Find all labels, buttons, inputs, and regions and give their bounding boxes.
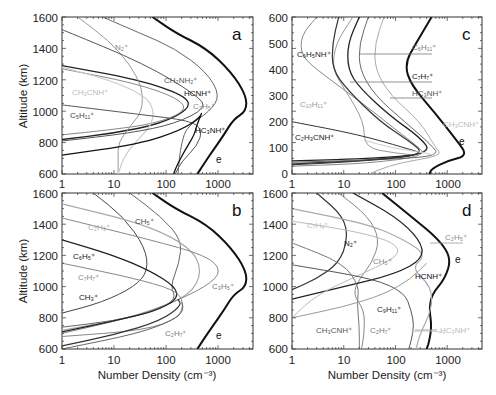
curve-ion-low <box>292 263 427 318</box>
panel-c: 600 500 400 300 200 100 0 1 10 100 1000 … <box>269 12 482 190</box>
ytick-d-800: 800 <box>269 312 288 324</box>
ytick-b-1200: 1200 <box>32 250 58 262</box>
panel-letter-c: c <box>462 25 471 44</box>
ytick-d-1600: 1600 <box>262 188 288 200</box>
ytick-c-500: 500 <box>269 38 288 50</box>
label-b-c6h5: C₆H₅⁺ <box>73 252 95 261</box>
label-d-ch5: CH₅⁺ <box>373 257 392 266</box>
label-c-c2h3cnh: C₂H₃CNH⁺ <box>295 133 334 142</box>
xtick-a-1000: 1000 <box>205 178 231 190</box>
panel-letter-d: d <box>462 201 471 220</box>
label-a-e: e <box>216 154 222 165</box>
xtick-c-1: 1 <box>289 178 295 190</box>
figure: 1600 1400 1200 1000 800 600 1 10 100 100… <box>0 0 496 395</box>
curve-n2- <box>292 193 346 290</box>
xtick-d-1000: 1000 <box>435 354 461 366</box>
xtick-c-1000: 1000 <box>435 178 461 190</box>
ytick-c-400: 400 <box>269 64 288 76</box>
label-d-ch3cnh: CH₃CNH⁺ <box>316 326 352 335</box>
ytick-b-1400: 1400 <box>32 219 58 231</box>
label-c-c7h7: C₇H₇⁺ <box>412 72 433 81</box>
label-d-c9h11: C₉H₁₁⁺ <box>377 305 401 314</box>
ytick-d-1000: 1000 <box>262 281 288 293</box>
label-d-c2h7: C₂H₇⁺ <box>370 326 391 335</box>
label-d-hcnh: HCNH⁺ <box>415 272 442 281</box>
xtick-d-10: 10 <box>338 354 351 366</box>
ytick-a-800: 800 <box>39 137 58 149</box>
xtick-c-100: 100 <box>386 178 405 190</box>
xtick-b-100: 100 <box>156 354 175 366</box>
ytick-a-1000: 1000 <box>32 106 58 118</box>
curve-ion-upper <box>62 30 203 141</box>
xtick-b-10: 10 <box>108 354 121 366</box>
label-c-c6h5nh: C₆H₅NH⁺ <box>297 50 331 59</box>
label-c-e: e <box>459 136 465 147</box>
panel-letter-b: b <box>232 201 241 220</box>
label-d-hc3nh: HC₃NH⁺ <box>440 326 470 335</box>
label-b-c2h3: C₂H₃⁺ <box>88 223 110 232</box>
xlabel-d: Number Density (cm⁻³) <box>328 369 447 381</box>
xlabel-b: Number Density (cm⁻³) <box>98 369 217 381</box>
label-a-c5h11: C₅H₁₁⁺ <box>70 111 94 120</box>
panel-a: 1600 1400 1200 1000 800 600 1 10 100 100… <box>17 12 253 190</box>
ytick-d-1200: 1200 <box>262 250 288 262</box>
xtick-a-10: 10 <box>108 178 121 190</box>
panel-b-curves <box>62 193 246 349</box>
label-d-n2: N₂⁺ <box>344 239 357 248</box>
label-c-c6h11: C₆H₁₁⁺ <box>412 43 436 52</box>
label-d-c7h9: C₇H₉⁺ <box>307 221 328 230</box>
ytick-b-1000: 1000 <box>32 281 58 293</box>
label-d-c2h5: C₂H₅⁺ <box>445 233 467 242</box>
ytick-a-1600: 1600 <box>32 12 58 24</box>
xtick-a-1: 1 <box>59 178 65 190</box>
xtick-b-1: 1 <box>59 354 65 366</box>
ylabel-a: Altitude (km) <box>17 64 29 129</box>
panel-d: 1600 1400 1200 1000 800 600 1 10 100 100… <box>262 188 482 381</box>
curve-c3h5- <box>292 221 398 318</box>
label-a-hc3nh: HC₃NH⁺ <box>195 126 225 135</box>
ytick-c-300: 300 <box>269 90 288 102</box>
label-b-c3h5: C₃H₅⁺ <box>212 282 234 291</box>
label-b-c7h7: C₇H₇⁺ <box>78 273 99 282</box>
xtick-c-10: 10 <box>338 178 351 190</box>
xtick-a-100: 100 <box>156 178 175 190</box>
ylabel-b: Altitude (km) <box>17 239 29 304</box>
ytick-d-600: 600 <box>269 343 288 355</box>
label-b-ch3: CH₃⁺ <box>79 293 98 302</box>
panel-b: 1600 1400 1200 1000 800 600 1 10 100 100… <box>17 188 253 381</box>
label-a-ch3cnh: CH₃CNH⁺ <box>72 88 108 97</box>
ytick-a-600: 600 <box>39 168 58 180</box>
ytick-b-1600: 1600 <box>32 188 58 200</box>
curve-c6h5nh- <box>292 17 422 166</box>
panel-letter-a: a <box>232 25 242 44</box>
curve-ion-1 <box>292 17 419 164</box>
ytick-c-600: 600 <box>269 12 288 24</box>
label-b-ch5: CH₅⁺ <box>135 217 154 226</box>
label-a-ch2nh2: CH₂NH₂⁺ <box>164 76 197 85</box>
xtick-d-1: 1 <box>289 354 295 366</box>
ytick-c-200: 200 <box>269 116 288 128</box>
ytick-d-1400: 1400 <box>262 219 288 231</box>
label-b-c2h7: C₂H₇⁺ <box>165 329 186 338</box>
label-a-hcnh: HCNH⁺ <box>184 89 211 98</box>
panel-c-ticks <box>292 17 482 174</box>
label-a-n2: N₂⁺ <box>115 43 128 52</box>
xtick-b-1000: 1000 <box>205 354 231 366</box>
label-a-c2h5: C₂H₅⁺ <box>193 102 215 111</box>
ytick-b-600: 600 <box>39 343 58 355</box>
label-c-ch3cnh: CH₃CNH⁺ <box>443 120 479 129</box>
ytick-c-100: 100 <box>269 142 288 154</box>
label-c-c10h11: C₁₀H₁₁⁺ <box>300 100 327 109</box>
ytick-a-1200: 1200 <box>32 75 58 87</box>
xtick-d-100: 100 <box>386 354 405 366</box>
ytick-b-800: 800 <box>39 312 58 324</box>
ytick-c-0: 0 <box>282 168 288 180</box>
label-c-hc3nh: HC₃NH⁺ <box>412 89 442 98</box>
label-b-e: e <box>216 330 222 341</box>
label-d-e: e <box>455 254 461 265</box>
ytick-a-1400: 1400 <box>32 43 58 55</box>
